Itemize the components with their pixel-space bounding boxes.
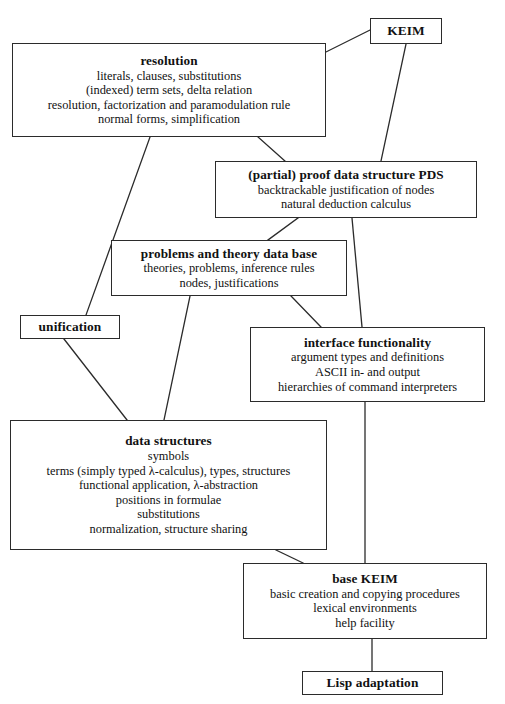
node-interface-line-3: hierarchies of command interpreters: [278, 380, 457, 395]
edge-resolution-pds: [258, 137, 285, 161]
node-lisp-adaptation[interactable]: Lisp adaptation: [302, 671, 443, 695]
node-data-structures[interactable]: data structures symbols terms (simply ty…: [10, 420, 327, 550]
node-problems-title: problems and theory data base: [141, 246, 317, 262]
node-keim-title: KEIM: [387, 23, 425, 39]
edge-unification-datastructures: [64, 339, 127, 420]
node-base-keim-line-2: lexical environments: [313, 601, 417, 616]
node-keim[interactable]: KEIM: [370, 18, 442, 44]
node-base-keim-line-3: help facility: [335, 616, 395, 631]
edge-problems-interface: [291, 296, 321, 327]
node-resolution-line-3: resolution, factorization and paramodula…: [48, 98, 291, 113]
node-interface-functionality[interactable]: interface functionality argument types a…: [250, 327, 485, 402]
node-data-structures-line-4: positions in formulae: [116, 493, 221, 508]
node-data-structures-line-3: functional application, λ-abstraction: [79, 478, 258, 493]
node-unification-title: unification: [39, 319, 102, 335]
node-lisp-adaptation-title: Lisp adaptation: [327, 675, 419, 691]
edge-pds-problems: [268, 218, 298, 240]
node-base-keim[interactable]: base KEIM basic creation and copying pro…: [243, 563, 487, 639]
node-resolution[interactable]: resolution literals, clauses, substituti…: [12, 43, 326, 137]
edge-datastructures-basekeim: [276, 550, 303, 563]
node-data-structures-line-1: symbols: [148, 449, 189, 464]
keim-architecture-diagram: KEIM resolution literals, clauses, subst…: [0, 0, 505, 704]
node-data-structures-title: data structures: [125, 433, 212, 449]
node-pds-title: (partial) proof data structure PDS: [248, 167, 444, 183]
node-data-structures-line-5: substitutions: [137, 507, 200, 522]
node-unification[interactable]: unification: [20, 315, 120, 339]
node-data-structures-line-2: terms (simply typed λ-calculus), types, …: [47, 464, 291, 479]
node-resolution-line-4: normal forms, simplification: [98, 112, 240, 127]
node-resolution-line-1: literals, clauses, substitutions: [97, 69, 242, 84]
edge-keim-pds: [381, 44, 406, 161]
edge-keim-resolution: [326, 30, 370, 52]
edge-problems-datastructures: [164, 296, 190, 420]
node-base-keim-line-1: basic creation and copying procedures: [270, 587, 460, 602]
node-problems-line-2: nodes, justifications: [179, 276, 278, 291]
node-resolution-title: resolution: [140, 53, 197, 69]
node-pds-line-2: natural deduction calculus: [281, 197, 411, 212]
edge-pds-interface: [352, 218, 362, 327]
node-resolution-line-2: (indexed) term sets, delta relation: [86, 83, 252, 98]
node-interface-title: interface functionality: [304, 335, 431, 351]
node-interface-line-1: argument types and definitions: [291, 350, 444, 365]
node-problems-and-theory-data-base[interactable]: problems and theory data base theories, …: [111, 240, 347, 296]
node-pds-line-1: backtrackable justification of nodes: [258, 183, 435, 198]
node-problems-line-1: theories, problems, inference rules: [144, 261, 315, 276]
node-data-structures-line-6: normalization, structure sharing: [90, 522, 248, 537]
node-base-keim-title: base KEIM: [332, 571, 398, 587]
node-pds[interactable]: (partial) proof data structure PDS backt…: [215, 161, 477, 218]
node-interface-line-2: ASCII in- and output: [315, 365, 420, 380]
